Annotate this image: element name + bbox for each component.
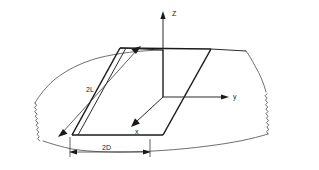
panel-edge-right (163, 49, 211, 135)
coordinate-axes-group (131, 11, 229, 127)
shell-right-torn-edge (265, 94, 269, 134)
dimension-2l-line (62, 50, 137, 133)
shell-top-right-curve (246, 51, 266, 92)
diagram-canvas: Z y x 2L 2D (0, 0, 319, 170)
shell-surface-group (35, 50, 269, 152)
y-axis-label: y (233, 93, 237, 101)
z-axis-arrowhead (160, 11, 165, 19)
dimension-2l-arrowhead-bottom (58, 129, 68, 137)
panel-edge-left (72, 48, 120, 135)
dimension-2l-arrowhead-top (131, 46, 141, 54)
shell-top-left-curve (35, 50, 163, 103)
dimension-2d-label: 2D (102, 144, 111, 151)
dimension-2d-group: 2D (69, 137, 151, 157)
shell-panel-diagram: Z y x 2L 2D (0, 0, 319, 170)
y-axis-arrowhead (221, 94, 229, 99)
z-axis-label: Z (172, 10, 177, 17)
panel-top-extension-right (211, 49, 246, 51)
shell-left-torn-edge (35, 103, 40, 141)
x-axis-line (136, 97, 163, 122)
panel-group (72, 48, 246, 135)
dimension-2l-label: 2L (86, 86, 94, 93)
shell-bottom-right-curve (118, 134, 268, 152)
x-axis-label: x (135, 128, 139, 135)
dimension-2l-group: 2L (58, 46, 141, 137)
